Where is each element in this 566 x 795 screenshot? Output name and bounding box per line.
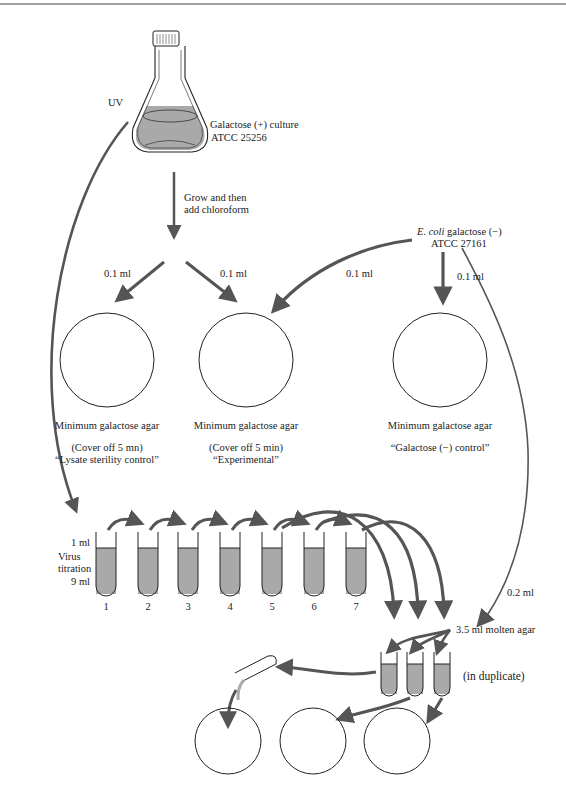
tube-number: 4 — [227, 600, 232, 613]
titration-bottom-label: 9 ml — [40, 575, 90, 588]
tube-number: 7 — [353, 600, 358, 613]
petri-dish-icon — [280, 708, 346, 774]
arrow-ecoli-to-plate-2 — [276, 240, 412, 308]
petri-dish-icon — [60, 313, 154, 407]
culture-atcc: ATCC 25256 — [211, 131, 267, 144]
molten-agar-label: 3.5 ml molten agar — [456, 623, 535, 636]
test-tube-icon — [220, 532, 240, 596]
test-tube-icon — [346, 532, 366, 596]
volume-label: 0.2 ml — [507, 586, 534, 599]
arrow-to-plate-c — [430, 698, 442, 718]
arrow-to-pipette — [282, 667, 376, 674]
test-tube-icon — [381, 652, 397, 696]
ecoli-atcc: ATCC 27161 — [431, 237, 487, 250]
volume-label: 0.1 ml — [104, 267, 131, 280]
duplicate-label: (in duplicate) — [463, 670, 525, 683]
test-tube-icon — [96, 532, 116, 596]
test-tube-icon — [178, 532, 198, 596]
protocol-diagram: UV Galactose (+) culture ATCC 25256 Grow… — [0, 0, 566, 795]
dilution-arrows — [108, 519, 346, 530]
soft-agar-tubes — [381, 652, 450, 696]
test-tube-icon — [434, 652, 450, 696]
grow-label-2: add chloroform — [184, 203, 249, 216]
flask-icon — [132, 31, 208, 156]
test-tube-icon — [407, 652, 423, 696]
petri-dish-icon — [364, 708, 430, 774]
volume-label: 0.1 ml — [220, 267, 247, 280]
titration-top-label: 1 ml — [40, 536, 90, 549]
tube-number: 1 — [103, 600, 108, 613]
titration-label-2: titration — [58, 562, 91, 575]
agar-arrows — [390, 630, 450, 650]
plate-3-note: “Galactose (−) control” — [391, 441, 490, 454]
tube-number: 3 — [185, 600, 190, 613]
tube-number: 5 — [269, 600, 274, 613]
plate-1-role: “Lysate sterility control” — [55, 453, 159, 466]
titration-tubes — [96, 532, 366, 596]
petri-dish-icon — [393, 313, 487, 407]
culture-label: Galactose (+) culture — [210, 118, 299, 131]
test-tube-icon — [138, 532, 158, 596]
plate-2-role: “Experimental” — [213, 453, 279, 466]
plate-1-medium: Minimum galactose agar — [55, 419, 159, 432]
volume-label: 0.1 ml — [457, 270, 484, 283]
petri-dish-icon — [199, 313, 293, 407]
test-tube-icon — [262, 532, 282, 596]
tube-number: 6 — [311, 600, 316, 613]
pipette-icon — [228, 656, 276, 722]
plate-2-medium: Minimum galactose agar — [194, 419, 298, 432]
tube-number: 2 — [145, 600, 150, 613]
plate-3-medium: Minimum galactose agar — [388, 419, 492, 432]
volume-label: 0.1 ml — [346, 267, 373, 280]
test-tube-icon — [304, 532, 324, 596]
uv-label: UV — [108, 96, 123, 109]
